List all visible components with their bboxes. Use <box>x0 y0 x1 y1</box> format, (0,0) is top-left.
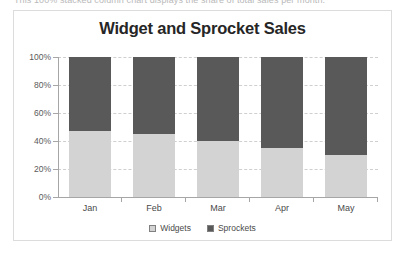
x-axis-tick <box>377 197 378 202</box>
y-axis-tick <box>53 197 58 198</box>
legend-swatch-icon <box>149 225 156 232</box>
y-axis-tick-label: 40% <box>17 136 51 146</box>
y-axis-tick <box>53 57 58 58</box>
x-tick-slot <box>58 197 122 202</box>
bar-slot <box>186 57 250 197</box>
x-axis-tick-label: May <box>314 203 378 213</box>
y-axis-tick-label: 100% <box>17 52 51 62</box>
y-axis-tick <box>53 85 58 86</box>
y-axis-tick <box>53 169 58 170</box>
chart-legend: WidgetsSprockets <box>14 223 391 233</box>
stacked-bar[interactable] <box>325 57 367 197</box>
legend-item[interactable]: Sprockets <box>207 223 256 233</box>
legend-item[interactable]: Widgets <box>149 223 191 233</box>
bar-segment-sprockets[interactable] <box>261 57 303 148</box>
y-axis-tick-label: 20% <box>17 164 51 174</box>
bar-slot <box>314 57 378 197</box>
x-axis-tick-label: Mar <box>186 203 250 213</box>
bar-slot <box>58 57 122 197</box>
stacked-bar[interactable] <box>69 57 111 197</box>
x-axis-ticks <box>58 197 378 202</box>
legend-swatch-icon <box>207 225 214 232</box>
bar-segment-sprockets[interactable] <box>325 57 367 155</box>
x-tick-slot <box>122 197 186 202</box>
document-body-text: This 100% stacked column chart displays … <box>14 0 405 6</box>
x-axis-tick-label: Apr <box>250 203 314 213</box>
bar-segment-widgets[interactable] <box>197 141 239 197</box>
bar-segment-widgets[interactable] <box>133 134 175 197</box>
bar-segment-sprockets[interactable] <box>133 57 175 134</box>
bar-segment-sprockets[interactable] <box>197 57 239 141</box>
stacked-bar[interactable] <box>197 57 239 197</box>
legend-label: Widgets <box>160 223 191 233</box>
bar-segment-sprockets[interactable] <box>69 57 111 131</box>
stacked-bar[interactable] <box>133 57 175 197</box>
x-tick-slot <box>250 197 314 202</box>
bar-slot <box>122 57 186 197</box>
y-axis-labels: 0%20%40%60%80%100% <box>14 57 51 197</box>
x-axis-tick-label: Jan <box>58 203 122 213</box>
x-tick-slot <box>186 197 250 202</box>
chart-title: Widget and Sprocket Sales <box>14 19 391 38</box>
x-axis-labels: JanFebMarAprMay <box>58 203 378 213</box>
bar-segment-widgets[interactable] <box>261 148 303 197</box>
chart-object[interactable]: Widget and Sprocket Sales 0%20%40%60%80%… <box>13 10 392 241</box>
y-axis-tick <box>53 141 58 142</box>
bar-segment-widgets[interactable] <box>69 131 111 197</box>
y-axis-tick <box>53 113 58 114</box>
y-axis-tick-label: 80% <box>17 80 51 90</box>
x-tick-slot <box>314 197 378 202</box>
y-axis-tick-label: 0% <box>17 192 51 202</box>
x-axis-tick-label: Feb <box>122 203 186 213</box>
bars-layer <box>58 57 378 197</box>
bar-segment-widgets[interactable] <box>325 155 367 197</box>
legend-label: Sprockets <box>218 223 256 233</box>
bar-slot <box>250 57 314 197</box>
stacked-bar[interactable] <box>261 57 303 197</box>
y-axis-tick-label: 60% <box>17 108 51 118</box>
